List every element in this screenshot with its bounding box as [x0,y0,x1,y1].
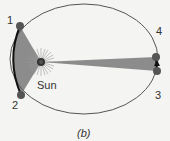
sun-label: Sun [37,80,57,91]
figure-caption: (b) [77,128,90,139]
orbit-diagram [0,0,170,141]
point-label-2: 2 [12,100,18,111]
planet-3 [153,67,161,75]
point-label-4: 4 [156,26,162,37]
sun-core [39,60,43,64]
swept-area-3-4 [41,57,157,71]
planet-1 [16,22,24,30]
point-label-3: 3 [155,90,161,101]
planet-4 [152,53,160,61]
point-label-1: 1 [7,15,13,26]
planet-2 [17,91,25,99]
